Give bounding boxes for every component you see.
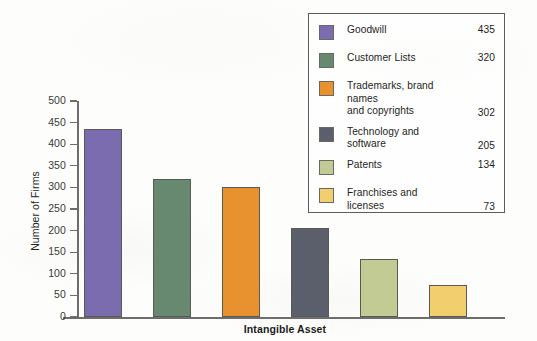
legend-item: Patents134	[319, 159, 495, 179]
legend-color-swatch	[319, 25, 334, 40]
legend-item: Trademarks, brand namesand copyrights302	[319, 80, 495, 118]
legend-item-label: Trademarks, brand namesand copyrights	[347, 80, 469, 118]
legend-item-label: Goodwill	[347, 24, 469, 37]
legend-item-value: 73	[469, 201, 495, 212]
bar	[360, 259, 398, 317]
x-axis-title: Intangible Asset	[185, 323, 385, 335]
bar	[291, 228, 329, 317]
bar	[429, 285, 467, 317]
legend-item-value: 320	[469, 52, 495, 63]
x-axis-line	[63, 317, 505, 319]
legend-item-label: Customer Lists	[347, 52, 469, 65]
legend-item-value: 435	[469, 24, 495, 35]
legend-color-swatch	[319, 53, 334, 68]
bar	[84, 129, 122, 317]
legend-item-label: Technology andsoftware	[347, 126, 469, 151]
legend-item: Customer Lists320	[319, 52, 495, 72]
legend-color-swatch	[319, 127, 334, 142]
chart-legend: Goodwill435Customer Lists320Trademarks, …	[308, 13, 505, 213]
bar	[153, 179, 191, 317]
legend-color-swatch	[319, 188, 334, 203]
legend-item-label: Patents	[347, 159, 469, 172]
legend-color-swatch	[319, 160, 334, 175]
legend-item-value: 302	[469, 107, 495, 118]
legend-item-label: Franchises andlicenses	[347, 187, 469, 212]
legend-color-swatch	[319, 81, 334, 96]
legend-item-value: 205	[469, 140, 495, 151]
chart-page: 500450400350300250200150100500 Number of…	[0, 0, 537, 341]
legend-item: Technology andsoftware205	[319, 126, 495, 151]
bar	[222, 187, 260, 317]
legend-item-value: 134	[469, 159, 495, 170]
legend-item: Franchises andlicenses73	[319, 187, 495, 212]
legend-item: Goodwill435	[319, 24, 495, 44]
